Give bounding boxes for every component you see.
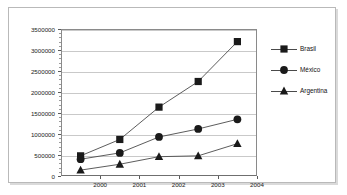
- data-point-circle: [155, 133, 163, 141]
- y-axis-tick-label: 1500000: [9, 110, 55, 117]
- legend-label: Argentina: [300, 87, 327, 95]
- chart-legend: BrasilMéxicoArgentina: [271, 41, 337, 97]
- legend-marker-square-icon: [271, 43, 297, 55]
- data-point-circle: [234, 115, 242, 123]
- legend-label: México: [300, 66, 320, 74]
- y-axis-tick-label: 3000000: [9, 47, 55, 54]
- x-axis-tick: [100, 176, 101, 179]
- data-point-square: [195, 78, 202, 85]
- x-axis-tick-label: 2003: [203, 181, 233, 188]
- chart-figure: 0500000100000015000002000000250000030000…: [0, 0, 347, 195]
- y-axis-tick-label: 1000000: [9, 131, 55, 138]
- legend-marker-circle-icon: [271, 64, 297, 76]
- legend-item-argentina[interactable]: Argentina: [271, 83, 337, 99]
- x-axis-tick: [218, 176, 219, 179]
- y-axis-tick-label: 0: [9, 173, 55, 180]
- x-axis-tick-label: 2001: [124, 181, 154, 188]
- data-point-circle: [194, 125, 202, 133]
- chart-frame: 0500000100000015000002000000250000030000…: [8, 7, 336, 183]
- data-point-square: [155, 104, 162, 111]
- data-point-circle: [280, 66, 288, 74]
- data-point-square: [116, 136, 123, 143]
- x-axis-tick-label: 2002: [164, 181, 194, 188]
- series-layer: [61, 29, 257, 176]
- series-brasil: [77, 38, 241, 159]
- x-axis-tick: [179, 176, 180, 179]
- y-axis-tick-label: 2500000: [9, 68, 55, 75]
- y-axis-tick: [58, 176, 61, 177]
- x-axis-tick: [139, 176, 140, 179]
- x-axis-tick-label: 2000: [85, 181, 115, 188]
- legend-item-méxico[interactable]: México: [271, 62, 337, 78]
- y-axis-tick-label: 500000: [9, 152, 55, 159]
- data-point-square: [280, 45, 287, 52]
- legend-marker-glyph: [271, 64, 297, 76]
- x-axis-tick: [257, 176, 258, 179]
- legend-item-brasil[interactable]: Brasil: [271, 41, 337, 57]
- legend-label: Brasil: [300, 45, 316, 53]
- data-point-square: [234, 38, 241, 45]
- legend-marker-glyph: [271, 43, 297, 55]
- data-point-triangle: [280, 87, 288, 95]
- data-point-circle: [116, 149, 124, 157]
- y-axis-tick-label: 2000000: [9, 89, 55, 96]
- data-point-triangle: [233, 139, 241, 147]
- legend-marker-glyph: [271, 85, 297, 97]
- x-axis-tick-label: 2004: [242, 181, 272, 188]
- data-point-circle: [77, 155, 85, 163]
- legend-marker-triangle-icon: [271, 85, 297, 97]
- series-argentina: [76, 139, 241, 173]
- y-axis-tick-label: 3500000: [9, 26, 55, 33]
